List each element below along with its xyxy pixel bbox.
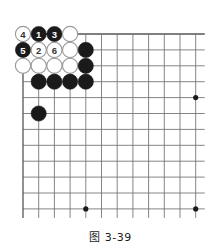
black-stone (78, 42, 93, 57)
white-stone (47, 58, 62, 73)
stone-white: 6 (47, 42, 62, 57)
stone-white (63, 42, 78, 57)
stone-move-number: 4 (20, 29, 26, 40)
star-points (83, 95, 198, 211)
white-stone (63, 58, 78, 73)
stone-black (31, 106, 46, 121)
stone-white: 2 (31, 42, 46, 57)
stone-white (47, 58, 62, 73)
stone-move-number: 5 (20, 45, 26, 56)
stone-white (63, 58, 78, 73)
black-stone (78, 74, 93, 89)
white-stone (63, 26, 78, 41)
stone-move-number: 1 (36, 29, 42, 40)
white-stone (63, 42, 78, 57)
star-point (193, 206, 198, 211)
stone-black (31, 74, 46, 89)
stone-black: 1 (31, 26, 46, 41)
black-stone (63, 74, 78, 89)
stone-black (78, 74, 93, 89)
white-stone (15, 58, 30, 73)
stone-black: 5 (15, 42, 30, 57)
stone-black: 3 (47, 26, 62, 41)
white-stone (31, 58, 46, 73)
stone-white (31, 58, 46, 73)
black-stone (31, 74, 46, 89)
stone-black (47, 74, 62, 89)
stone-black (78, 58, 93, 73)
black-stone (78, 58, 93, 73)
stone-move-number: 6 (52, 45, 57, 56)
go-board-svg: 413526 (0, 0, 221, 225)
stone-move-number: 2 (36, 45, 41, 56)
stone-white (15, 58, 30, 73)
black-stone (31, 106, 46, 121)
stone-white (63, 26, 78, 41)
go-figure: 413526 图 3-39 (0, 0, 221, 252)
stone-black (78, 42, 93, 57)
star-point (83, 206, 88, 211)
star-point (193, 95, 198, 100)
black-stone (47, 74, 62, 89)
figure-caption: 图 3-39 (0, 228, 221, 244)
stone-move-number: 3 (52, 29, 57, 40)
stone-white: 4 (15, 26, 30, 41)
go-board: 413526 (0, 0, 221, 225)
stone-black (63, 74, 78, 89)
